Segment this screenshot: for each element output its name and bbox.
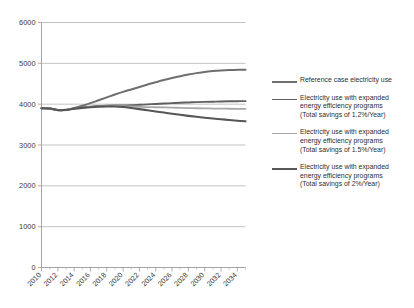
- x-tick-labels: 2010201220142016201820202022202420262028…: [25, 271, 239, 289]
- x-tick-label: 2012: [42, 271, 60, 289]
- x-tick-label: 2016: [74, 271, 92, 289]
- y-tick-label: 0: [31, 263, 35, 272]
- legend-entry[interactable]: Reference case electricity use: [272, 76, 414, 85]
- line-chart: 0100020003000400050006000 20102012201420…: [0, 0, 414, 308]
- legend-entry[interactable]: Electricity use with expanded energy eff…: [272, 94, 414, 120]
- legend-label: Electricity use with expanded energy eff…: [300, 163, 389, 189]
- legend-line-swatch: [272, 99, 297, 100]
- x-tick-label: 2020: [107, 271, 125, 289]
- legend-swatch-wrap: [272, 94, 300, 100]
- x-tick-label: 2022: [123, 271, 141, 289]
- x-tick-label: 2026: [156, 271, 174, 289]
- legend-swatch-wrap: [272, 76, 300, 83]
- legend-label: Electricity use with expanded energy eff…: [300, 128, 389, 154]
- legend-entry[interactable]: Electricity use with expanded energy eff…: [272, 163, 414, 189]
- x-tick-label: 2028: [172, 271, 190, 289]
- x-tick-label: 2032: [205, 271, 223, 289]
- data-series: [42, 70, 246, 122]
- x-tick-label: 2018: [91, 271, 109, 289]
- y-tick-label: 2000: [19, 181, 35, 190]
- y-tick-label: 5000: [19, 59, 35, 68]
- y-tick-label: 1000: [19, 222, 35, 231]
- y-tick-label: 4000: [19, 100, 35, 109]
- legend-swatch-wrap: [272, 163, 300, 170]
- legend-swatch-wrap: [272, 128, 300, 134]
- x-tick-label: 2014: [58, 271, 76, 289]
- legend-label: Reference case electricity use: [300, 76, 392, 85]
- legend-line-swatch: [272, 168, 297, 170]
- legend-entry[interactable]: Electricity use with expanded energy eff…: [272, 128, 414, 154]
- y-axis: [38, 23, 42, 268]
- y-tick-label: 6000: [19, 18, 35, 27]
- legend-label: Electricity use with expanded energy eff…: [300, 94, 389, 120]
- grid-lines: [42, 23, 246, 227]
- x-tick-label: 2024: [139, 271, 157, 289]
- x-tick-label: 2010: [25, 271, 43, 289]
- legend-line-swatch: [272, 133, 297, 134]
- legend-line-swatch: [272, 81, 297, 83]
- y-tick-label: 3000: [19, 141, 35, 150]
- x-tick-label: 2034: [221, 271, 239, 289]
- x-tick-label: 2030: [188, 271, 206, 289]
- y-tick-labels: 0100020003000400050006000: [19, 18, 35, 272]
- chart-legend: Reference case electricity useElectricit…: [272, 76, 414, 198]
